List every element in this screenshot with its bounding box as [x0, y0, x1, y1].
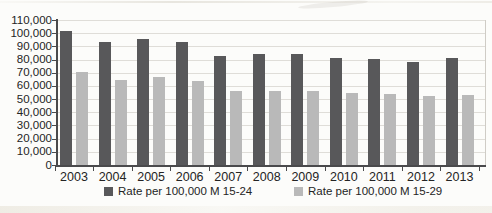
legend-swatch-light-icon [294, 187, 303, 196]
chart-legend: Rate per 100,000 M 15-24 Rate per 100,00… [0, 185, 492, 199]
x-axis-label-2008: 2008 [248, 170, 286, 184]
bar-m15-24-2003 [60, 31, 72, 165]
bar-m15-24-2011 [368, 59, 380, 165]
y-axis-tick-label-50000: 50,000 [4, 93, 52, 106]
x-axis-label-2009: 2009 [286, 170, 324, 184]
bar-m15-29-2009 [307, 91, 319, 165]
legend-item-rate-15-29: Rate per 100,000 M 15-29 [294, 185, 442, 197]
x-axis-label-2005: 2005 [132, 170, 170, 184]
bar-m15-29-2013 [462, 95, 474, 165]
bar-m15-24-2009 [291, 54, 303, 165]
y-axis-tick-label-0: 0 [4, 159, 52, 172]
x-axis-label-2010: 2010 [325, 170, 363, 184]
y-axis-tick-label-70000: 70,000 [4, 66, 52, 79]
scan-artifact-top-line [0, 1, 492, 3]
gridline-80000 [57, 60, 485, 61]
bar-m15-29-2003 [76, 72, 88, 165]
y-axis-tick-label-110000: 110,000 [4, 14, 52, 27]
scanned-chart-figure: 010,00020,00030,00040,00050,00060,00070,… [0, 0, 492, 213]
y-axis-tick-label-60000: 60,000 [4, 79, 52, 92]
x-axis-tick-11 [479, 167, 480, 171]
bar-m15-29-2011 [384, 94, 396, 165]
bar-m15-24-2012 [407, 62, 419, 165]
bar-m15-29-2005 [153, 77, 165, 165]
y-axis-tick-label-80000: 80,000 [4, 53, 52, 66]
x-axis-label-2003: 2003 [55, 170, 93, 184]
x-axis-label-2007: 2007 [209, 170, 247, 184]
bar-m15-24-2005 [137, 39, 149, 165]
plot-right-border [485, 20, 486, 165]
bar-m15-24-2006 [176, 42, 188, 165]
bar-m15-29-2008 [269, 91, 281, 165]
legend-item-rate-15-24: Rate per 100,000 M 15-24 [104, 185, 252, 197]
y-axis-tick-label-100000: 100,000 [4, 27, 52, 40]
bar-m15-29-2006 [192, 81, 204, 165]
legend-label-rate-15-29: Rate per 100,000 M 15-29 [308, 185, 442, 197]
bar-m15-29-2007 [230, 91, 242, 165]
x-axis-line [55, 165, 486, 167]
x-axis-label-2004: 2004 [94, 170, 132, 184]
y-axis-tick-label-20000: 20,000 [4, 132, 52, 145]
x-axis-label-2013: 2013 [441, 170, 479, 184]
bar-m15-24-2010 [330, 58, 342, 165]
bar-m15-24-2008 [253, 54, 265, 165]
x-axis-label-2011: 2011 [363, 170, 401, 184]
y-axis-tick-label-40000: 40,000 [4, 106, 52, 119]
y-axis-tick-label-30000: 30,000 [4, 119, 52, 132]
gridline-110000 [57, 20, 485, 21]
bar-m15-24-2013 [446, 58, 458, 165]
y-axis-line [56, 19, 58, 166]
bar-m15-29-2012 [423, 96, 435, 165]
bar-m15-24-2007 [214, 56, 226, 165]
legend-label-rate-15-24: Rate per 100,000 M 15-24 [118, 185, 252, 197]
gridline-70000 [57, 73, 485, 74]
y-axis-tick-label-90000: 90,000 [4, 40, 52, 53]
legend-swatch-dark-icon [104, 187, 113, 196]
gridline-90000 [57, 46, 485, 47]
bar-m15-29-2004 [115, 80, 127, 165]
bar-m15-29-2010 [346, 93, 358, 165]
x-axis-label-2012: 2012 [402, 170, 440, 184]
gridline-100000 [57, 33, 485, 34]
scan-artifact-bottom-stain [0, 206, 492, 213]
x-axis-label-2006: 2006 [171, 170, 209, 184]
bar-m15-24-2004 [99, 42, 111, 165]
y-axis-tick-label-10000: 10,000 [4, 145, 52, 158]
